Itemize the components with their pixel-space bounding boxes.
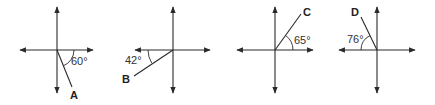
diagram-d: 76° D: [339, 6, 415, 93]
ray-label-d: D: [351, 6, 359, 18]
diagram-b: 42° B: [122, 7, 210, 93]
angle-label-a: 60°: [71, 55, 88, 67]
diagram-a: 60° A: [20, 7, 93, 101]
angle-arc-c: [286, 35, 294, 50]
ray-label-a: A: [70, 89, 78, 101]
angle-label-b: 42°: [125, 54, 142, 66]
ray-label-c: C: [303, 6, 311, 18]
diagram-c: 65° C: [237, 6, 313, 93]
angle-label-c: 65°: [294, 34, 311, 46]
ray-a: [57, 50, 72, 87]
angle-diagrams: 60° A 42° B 65° C 76° D: [0, 0, 435, 105]
angle-arc-b: [148, 50, 152, 63]
angle-label-d: 76°: [347, 33, 364, 45]
ray-label-b: B: [122, 73, 130, 85]
